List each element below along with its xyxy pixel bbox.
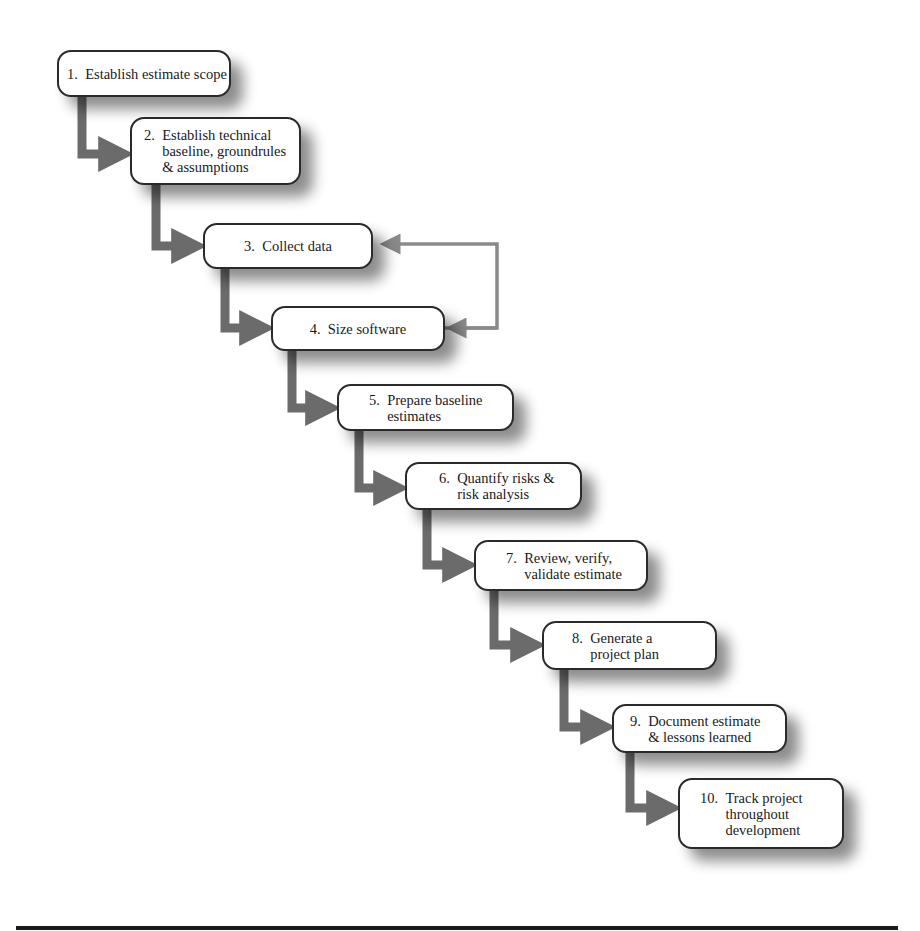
step-1-box: 1. Establish estimate scope	[57, 50, 231, 97]
arrow-6-7	[427, 509, 462, 565]
step-number: 8.	[572, 630, 583, 646]
step-arrows	[82, 97, 666, 808]
arrow-4-5	[292, 350, 325, 408]
step-number: 10.	[700, 790, 718, 806]
step-number: 5.	[369, 392, 380, 408]
step-2-box: 2. Establish technical baseline, groundr…	[130, 117, 301, 185]
arrow-9-10	[630, 752, 666, 808]
step-label: Quantify risks & risk analysis	[457, 470, 554, 502]
step-label: Establish technical baseline, groundrule…	[162, 127, 286, 175]
step-number: 9.	[630, 713, 641, 729]
step-label: Review, verify, validate estimate	[524, 550, 622, 582]
estimation-process-diagram: 1. Establish estimate scope 2. Establish…	[0, 0, 920, 931]
arrow-2-3	[156, 185, 191, 246]
arrow-1-2	[82, 97, 118, 154]
arrow-8-9	[564, 669, 600, 727]
step-number: 1.	[67, 66, 78, 82]
arrow-3-4	[225, 268, 259, 328]
step-10-box: 10. Track project throughout development	[678, 778, 844, 849]
step-9-box: 9. Document estimate & lessons learned	[612, 704, 787, 753]
step-label: Size software	[328, 321, 407, 337]
arrow-5-6	[359, 430, 393, 488]
step-label: Collect data	[262, 238, 332, 254]
step-4-box: 4. Size software	[271, 306, 445, 351]
step-label: Track project throughout development	[725, 790, 802, 838]
step-6-box: 6. Quantify risks & risk analysis	[405, 462, 582, 510]
step-label: Prepare baseline estimates	[387, 392, 482, 424]
step-label: Generate a project plan	[590, 630, 659, 662]
step-3-box: 3. Collect data	[203, 223, 373, 269]
arrow-7-8	[494, 590, 530, 645]
step-5-box: 5. Prepare baseline estimates	[337, 384, 514, 431]
step-number: 2.	[144, 127, 155, 143]
step-7-box: 7. Review, verify, validate estimate	[474, 540, 648, 591]
step-number: 7.	[506, 550, 517, 566]
step-number: 6.	[439, 470, 450, 486]
step-8-box: 8. Generate a project plan	[542, 621, 717, 670]
step-label: Establish estimate scope	[85, 66, 227, 82]
step-number: 4.	[310, 321, 321, 337]
step-number: 3.	[244, 238, 255, 254]
step-label: Document estimate & lessons learned	[648, 713, 760, 745]
